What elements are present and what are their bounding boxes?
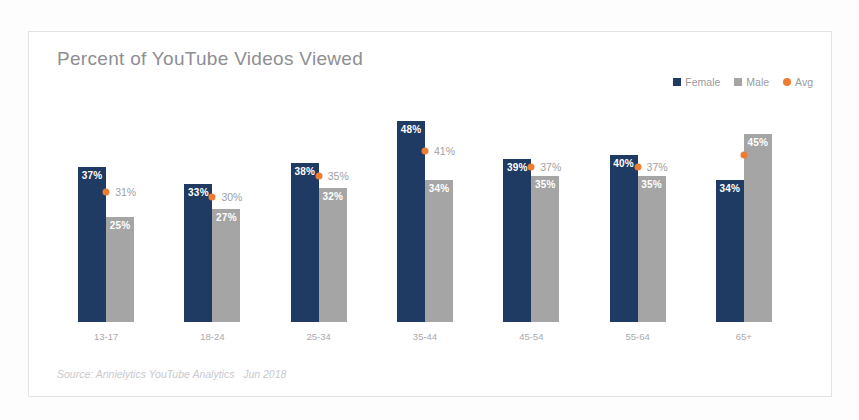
source-note: Source: Annielytics YouTube Analytics Ju… [57,368,286,380]
bar-value-label: 25% [106,220,134,231]
bar-value-label: 34% [716,183,744,194]
bar-female[interactable]: 33% [184,184,212,322]
legend-label-avg: Avg [795,76,813,88]
bar-chart-plot-area: 37%25%31%13-1733%27%30%18-2438%32%35%25-… [59,92,803,322]
category-label: 35-44 [397,331,453,342]
avg-value-label: 37% [540,161,561,173]
bar-group: 37%25%31%13-17 [78,92,134,322]
avg-value-label: 30% [221,191,242,203]
bar-value-label: 35% [638,179,666,190]
bar-female[interactable]: 39% [503,159,531,322]
bar-male[interactable]: 32% [319,188,347,322]
legend-item-male[interactable]: Male [734,76,769,88]
avg-marker-dot[interactable] [528,164,535,171]
bar-group: 48%34%41%35-44 [397,92,453,322]
avg-marker-dot[interactable] [422,147,429,154]
bar-value-label: 32% [319,191,347,202]
category-label: 18-24 [184,331,240,342]
avg-value-label: 41% [434,145,455,157]
avg-marker-dot[interactable] [634,164,641,171]
bar-male[interactable]: 35% [531,176,559,322]
page-title: Percent of YouTube Videos Viewed [57,48,363,70]
category-label: 45-54 [503,331,559,342]
legend-swatch-female [673,78,681,86]
bar-male[interactable]: 35% [638,176,666,322]
legend-label-female: Female [685,76,720,88]
legend-swatch-male [734,78,742,86]
category-label: 55-64 [610,331,666,342]
bar-male[interactable]: 45% [744,134,772,322]
avg-value-label: 37% [647,161,668,173]
avg-marker-dot[interactable] [209,193,216,200]
chart-card: Percent of YouTube Videos Viewed Female … [28,31,832,397]
legend-item-avg[interactable]: Avg [783,76,813,88]
legend-swatch-avg [783,78,791,86]
bar-group: 33%27%30%18-24 [184,92,240,322]
bar-group: 40%35%37%55-64 [610,92,666,322]
bar-value-label: 35% [531,179,559,190]
bar-group: 34%45%40%65+ [716,92,772,322]
bar-group: 39%35%37%45-54 [503,92,559,322]
bar-group: 38%32%35%25-34 [291,92,347,322]
bar-female[interactable]: 40% [610,155,638,322]
bar-male[interactable]: 27% [212,209,240,322]
bar-female[interactable]: 38% [291,163,319,322]
chart-legend: Female Male Avg [673,76,813,88]
bar-value-label: 37% [78,170,106,181]
category-label: 25-34 [291,331,347,342]
avg-marker-dot[interactable] [740,151,747,158]
bar-value-label: 48% [397,124,425,135]
avg-value-label: 35% [328,170,349,182]
bar-female[interactable]: 34% [716,180,744,322]
bar-value-label: 45% [744,137,772,148]
legend-label-male: Male [746,76,769,88]
category-label: 13-17 [78,331,134,342]
bar-value-label: 34% [425,183,453,194]
avg-value-label: 31% [115,186,136,198]
bar-male[interactable]: 34% [425,180,453,322]
bar-value-label: 27% [212,212,240,223]
legend-item-female[interactable]: Female [673,76,720,88]
avg-marker-dot[interactable] [103,189,110,196]
category-label: 65+ [716,331,772,342]
bar-male[interactable]: 25% [106,217,134,322]
avg-marker-dot[interactable] [315,172,322,179]
